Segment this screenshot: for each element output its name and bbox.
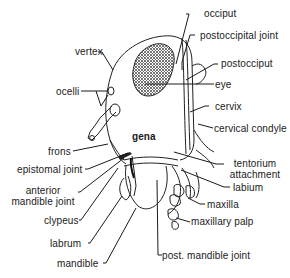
label-labium: labium — [233, 182, 263, 193]
label-postoccipital-joint: postoccipital joint — [200, 30, 278, 41]
label-mandible: mandible — [57, 258, 98, 269]
label-frons: frons — [48, 146, 71, 157]
label-ocelli: ocelli — [56, 86, 79, 97]
label-maxilla: maxilla — [207, 199, 239, 210]
label-maxillary-palp: maxillary palp — [191, 216, 254, 227]
label-vertex: vertex — [75, 46, 103, 57]
label-postocciput: postocciput — [221, 58, 273, 69]
label-tentorium-line1: tentorium — [234, 158, 277, 169]
label-clypeus: clypeus — [44, 215, 79, 226]
label-epistomal-joint: epistomal joint — [17, 164, 82, 175]
label-cervix: cervix — [215, 101, 242, 112]
label-cervical-condyle: cervical condyle — [214, 123, 287, 134]
ocellus — [108, 87, 114, 95]
label-gena: gena — [132, 131, 156, 142]
label-labrum: labrum — [50, 238, 81, 249]
insect-head-diagram: occiput postoccipital joint vertex posto… — [0, 0, 290, 278]
label-tentorium-attachment: tentorium attachment — [226, 158, 284, 180]
label-anterior-mandible-joint: anterior mandible joint — [8, 185, 78, 207]
compound-eye — [133, 44, 174, 96]
label-eye: eye — [215, 79, 231, 90]
label-post-mandible-joint: post. mandible joint — [162, 250, 250, 261]
label-tentorium-line2: attachment — [230, 169, 280, 180]
label-occiput: occiput — [204, 8, 236, 19]
label-anterior-line2: mandible joint — [11, 196, 74, 207]
label-anterior-line1: anterior — [26, 185, 61, 196]
